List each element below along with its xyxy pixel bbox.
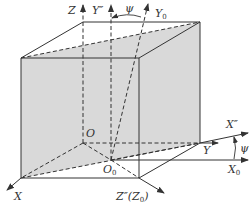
label-y: Y (203, 145, 210, 156)
label-z: Z (68, 5, 76, 16)
label-z-double-prime: Z″(Z0) (116, 191, 148, 204)
psi-arc-right (234, 137, 236, 159)
label-x0-sub: 0 (236, 169, 240, 177)
label-o: O (86, 128, 95, 139)
label-o0-sub: 0 (112, 169, 116, 177)
label-y-double-prime: Y″ (92, 5, 103, 16)
label-x-double-prime: X″ (226, 119, 238, 130)
label-y0: Y0 (155, 8, 167, 21)
frame-rotation-diagram: Z Y″ ψ Y0 O O0 X Z″(Z0) Y X″ ψ X0 (0, 0, 250, 211)
label-psi-top: ψ (125, 3, 134, 14)
label-psi-right: ψ (240, 143, 249, 154)
label-o0-main: O (103, 163, 112, 176)
psi-arc-top (112, 15, 141, 18)
label-x0-main: X (228, 163, 236, 176)
label-zpp-close: ) (144, 190, 148, 203)
label-y0-sub: 0 (162, 13, 166, 21)
x-axis (7, 178, 21, 190)
label-zpp-main: Z″(Z (116, 190, 140, 203)
label-o0: O0 (103, 164, 117, 177)
diagram-canvas (0, 0, 250, 211)
label-x: X (14, 191, 22, 202)
label-x0: X0 (228, 164, 240, 177)
